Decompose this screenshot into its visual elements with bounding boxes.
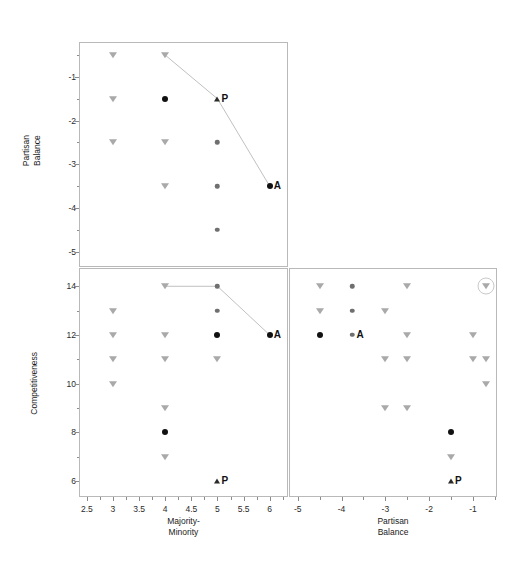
point-label-a: A bbox=[274, 181, 281, 191]
x-tick-mark-majority_minority_x-2 bbox=[139, 497, 140, 501]
y-tick-minor-top-left-0 bbox=[77, 55, 80, 56]
x-tick-mark-partisan_balance_x-4 bbox=[473, 497, 474, 501]
y-tick-label-partisan_balance_y-1: -2 bbox=[56, 116, 76, 125]
x-tick-label-partisan_balance_x-1: -4 bbox=[338, 505, 346, 514]
y-tick-mark-competitiveness_y-2 bbox=[75, 384, 79, 385]
y-tick-minor-top-left-3 bbox=[77, 186, 80, 187]
y-axis-title-competitiveness: Competitiveness bbox=[29, 343, 40, 423]
y-tick-minor-bottom-left-0 bbox=[77, 311, 80, 312]
x-tick-mark-majority_minority_x-1 bbox=[113, 497, 114, 501]
x-tick-label-majority_minority_x-4: 4.5 bbox=[185, 505, 197, 514]
x-tick-label-majority_minority_x-6: 5.5 bbox=[238, 505, 250, 514]
x-tick-minor-bottom-left-0 bbox=[100, 497, 101, 500]
x-tick-minor-bottom-right-3 bbox=[451, 497, 452, 500]
y-tick-mark-partisan_balance_y-2 bbox=[75, 164, 79, 165]
x-tick-label-majority_minority_x-0: 2.5 bbox=[81, 505, 93, 514]
x-tick-minor-bottom-right-1 bbox=[363, 497, 364, 500]
point-label-p: P bbox=[221, 476, 228, 486]
y-tick-label-competitiveness_y-0: 14 bbox=[56, 282, 76, 291]
x-tick-mark-majority_minority_x-6 bbox=[244, 497, 245, 501]
x-tick-minor-bottom-right-0 bbox=[320, 497, 321, 500]
x-tick-label-majority_minority_x-1: 3 bbox=[111, 505, 116, 514]
x-tick-label-majority_minority_x-3: 4 bbox=[163, 505, 168, 514]
x-tick-mark-partisan_balance_x-2 bbox=[385, 497, 386, 501]
x-axis-title-majority-minority: Majority- Minority bbox=[134, 516, 234, 537]
y-tick-mark-competitiveness_y-3 bbox=[75, 432, 79, 433]
panel-partisan-balance-vs-majority-minority[interactable] bbox=[79, 42, 288, 267]
x-tick-mark-majority_minority_x-0 bbox=[87, 497, 88, 501]
y-tick-mark-competitiveness_y-1 bbox=[75, 335, 79, 336]
x-tick-mark-partisan_balance_x-0 bbox=[298, 497, 299, 501]
x-tick-minor-bottom-left-5 bbox=[231, 497, 232, 500]
point-label-p: P bbox=[221, 94, 228, 104]
x-tick-mark-partisan_balance_x-1 bbox=[342, 497, 343, 501]
x-axis-title-partisan-balance: Partisan Balance bbox=[343, 516, 443, 537]
y-tick-mark-partisan_balance_y-3 bbox=[75, 208, 79, 209]
y-tick-mark-competitiveness_y-4 bbox=[75, 481, 79, 482]
x-tick-label-majority_minority_x-7: 6 bbox=[267, 505, 272, 514]
y-tick-label-partisan_balance_y-2: -3 bbox=[56, 160, 76, 169]
x-tick-minor-bottom-left-3 bbox=[178, 497, 179, 500]
y-tick-label-competitiveness_y-2: 10 bbox=[56, 379, 76, 388]
x-tick-mark-majority_minority_x-7 bbox=[270, 497, 271, 501]
x-tick-minor-bottom-left-1 bbox=[126, 497, 127, 500]
scatterplot-matrix-figure: PAPAAP-1-2-3-4-5141210862.533.544.555.56… bbox=[0, 0, 514, 562]
point-label-a: A bbox=[356, 330, 363, 340]
panel-competitiveness-vs-majority-minority[interactable] bbox=[79, 268, 288, 497]
x-tick-minor-bottom-left-6 bbox=[257, 497, 258, 500]
x-tick-minor-bottom-left-7 bbox=[283, 497, 284, 500]
y-tick-minor-top-left-4 bbox=[77, 230, 80, 231]
x-tick-mark-majority_minority_x-3 bbox=[165, 497, 166, 501]
y-tick-mark-partisan_balance_y-4 bbox=[75, 252, 79, 253]
x-tick-label-partisan_balance_x-3: -2 bbox=[425, 505, 433, 514]
x-tick-minor-bottom-right-4 bbox=[495, 497, 496, 500]
y-tick-label-partisan_balance_y-0: -1 bbox=[56, 73, 76, 82]
y-tick-minor-top-left-2 bbox=[77, 142, 80, 143]
point-label-p: P bbox=[455, 476, 462, 486]
panel-competitiveness-vs-partisan-balance[interactable] bbox=[289, 268, 497, 497]
point-label-a: A bbox=[274, 330, 281, 340]
x-tick-label-majority_minority_x-5: 5 bbox=[215, 505, 220, 514]
x-tick-mark-majority_minority_x-4 bbox=[191, 497, 192, 501]
x-tick-minor-bottom-left-4 bbox=[204, 497, 205, 500]
x-tick-label-partisan_balance_x-4: -1 bbox=[469, 505, 477, 514]
y-tick-mark-partisan_balance_y-1 bbox=[75, 121, 79, 122]
y-tick-label-competitiveness_y-4: 6 bbox=[56, 477, 76, 486]
y-tick-mark-competitiveness_y-0 bbox=[75, 286, 79, 287]
y-tick-label-partisan_balance_y-3: -4 bbox=[56, 204, 76, 213]
x-tick-label-partisan_balance_x-2: -3 bbox=[382, 505, 390, 514]
y-tick-minor-bottom-left-2 bbox=[77, 408, 80, 409]
y-tick-mark-partisan_balance_y-0 bbox=[75, 77, 79, 78]
y-tick-minor-top-left-1 bbox=[77, 99, 80, 100]
y-tick-minor-bottom-left-3 bbox=[77, 457, 80, 458]
x-tick-label-partisan_balance_x-0: -5 bbox=[294, 505, 302, 514]
x-tick-label-majority_minority_x-2: 3.5 bbox=[133, 505, 145, 514]
y-tick-minor-bottom-left-1 bbox=[77, 359, 80, 360]
x-tick-minor-bottom-left-2 bbox=[152, 497, 153, 500]
y-tick-label-partisan_balance_y-4: -5 bbox=[56, 247, 76, 256]
y-tick-label-competitiveness_y-1: 12 bbox=[56, 331, 76, 340]
x-tick-minor-bottom-right-2 bbox=[407, 497, 408, 500]
x-tick-mark-partisan_balance_x-3 bbox=[429, 497, 430, 501]
y-axis-title-partisan-balance: Partisan Balance bbox=[21, 121, 42, 181]
y-tick-label-competitiveness_y-3: 8 bbox=[56, 428, 76, 437]
x-tick-mark-majority_minority_x-5 bbox=[217, 497, 218, 501]
